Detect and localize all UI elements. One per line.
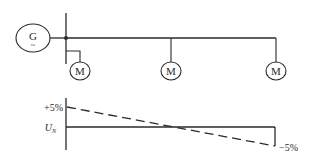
generator-ac-symbol: ~ — [31, 41, 36, 50]
nominal-voltage-subscript: N — [51, 128, 57, 134]
power-distribution-diagram: G ~ M M M +5% U N −5% — [0, 0, 310, 161]
generator: G ~ — [16, 24, 50, 52]
plus-five-percent-label: +5% — [44, 102, 63, 113]
motor-2-label: M — [166, 65, 176, 77]
voltage-profile-chart: +5% U N −5% — [44, 98, 298, 153]
motor-1: M — [70, 62, 90, 80]
motor-1-feeder — [66, 51, 80, 62]
motor-2: M — [161, 62, 181, 80]
motor-3: M — [266, 62, 286, 80]
minus-five-percent-label: −5% — [279, 142, 298, 153]
motor-3-label: M — [271, 65, 281, 77]
motor-1-label: M — [75, 65, 85, 77]
